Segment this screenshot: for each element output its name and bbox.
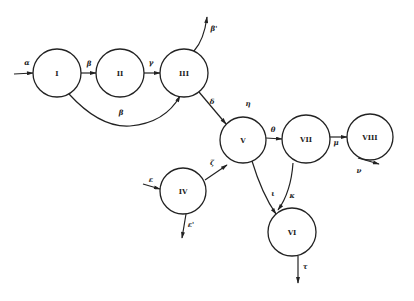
edge-mu: μ — [330, 137, 347, 147]
edge-label-alpha: α — [24, 58, 30, 67]
edge-label-epsilon: ε — [149, 175, 154, 184]
edge-label-mu: μ — [333, 138, 338, 147]
edge-tau: τ — [298, 256, 308, 283]
edge-beta-I-III-curve: β — [69, 94, 180, 126]
edge-label-nu: ν — [357, 166, 362, 175]
node-II: II — [96, 49, 144, 97]
node-label-III: III — [179, 69, 189, 78]
node-label-I: I — [55, 69, 58, 78]
edge-gamma: γ — [144, 58, 160, 74]
edge-label-kappa: κ — [288, 191, 294, 200]
edge-label-beta-prime: β' — [210, 24, 218, 33]
edge-kappa: κ — [278, 163, 295, 210]
node-VI: VI — [268, 208, 316, 256]
node-label-V: V — [239, 136, 246, 145]
edge-theta: θ — [266, 125, 282, 140]
node-label-IV: IV — [179, 187, 188, 196]
edge-label-theta: θ — [271, 125, 276, 134]
edge-beta-prime: β' — [194, 17, 217, 51]
edge-label-delta: δ — [209, 97, 215, 106]
edge-label-iota: ι — [271, 189, 274, 198]
edge-beta-I-II: β — [81, 59, 96, 74]
edge-iota: ι — [252, 161, 276, 214]
edge-label-beta-curve: β — [118, 108, 124, 117]
node-VII: VII — [282, 115, 330, 163]
edge-label-tau: τ — [303, 262, 308, 271]
edge-label-gamma: γ — [149, 58, 154, 67]
edge-epsilon-prime: ε' — [182, 214, 194, 238]
edge-label-beta: β — [86, 59, 92, 68]
annotation-eta: η — [245, 99, 250, 108]
edge-alpha: α — [14, 58, 33, 75]
edge-label-zeta: ζ — [210, 158, 215, 167]
node-VIII: VIII — [347, 114, 393, 160]
edge-epsilon: ε — [143, 175, 160, 190]
node-label-VII: VII — [299, 135, 312, 144]
flow-diagram: α β γ β β' δ η ε ε' ζ θ ι μ — [0, 0, 414, 301]
edge-label-epsilon-prime: ε' — [188, 220, 194, 229]
node-label-VI: VI — [287, 228, 297, 237]
node-I: I — [33, 49, 81, 97]
node-V: V — [220, 117, 266, 163]
node-label-II: II — [117, 69, 124, 78]
node-III: III — [160, 49, 208, 97]
edge-zeta: ζ — [205, 158, 227, 181]
node-label-VIII: VIII — [361, 133, 377, 142]
edge-delta: δ — [199, 92, 226, 124]
node-IV: IV — [160, 168, 206, 214]
